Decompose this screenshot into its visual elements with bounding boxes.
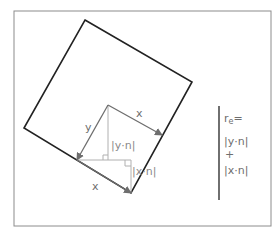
y-vector-label: y (85, 121, 92, 134)
formula-lhs: re= (224, 112, 243, 126)
formula-term1: |y·n| (224, 135, 248, 148)
formula-plus: + (225, 148, 234, 161)
x-dot-n-label: |x·n| (132, 165, 156, 178)
x-vector-bottom-label: x (92, 180, 99, 193)
formula-term2: |x·n| (224, 164, 248, 177)
right-angle-marker-1 (103, 155, 108, 160)
x-vector-bottom-arrow (77, 160, 131, 193)
x-vector-arrow (108, 105, 162, 135)
x-vector-label: x (136, 107, 143, 120)
y-dot-n-label: |y·n| (111, 139, 135, 152)
diagram-canvas: x y x |y·n| |x·n| re= |y·n| + |x·n| (0, 0, 277, 238)
right-angle-marker-2 (125, 160, 131, 166)
y-vector-arrow (77, 105, 108, 160)
